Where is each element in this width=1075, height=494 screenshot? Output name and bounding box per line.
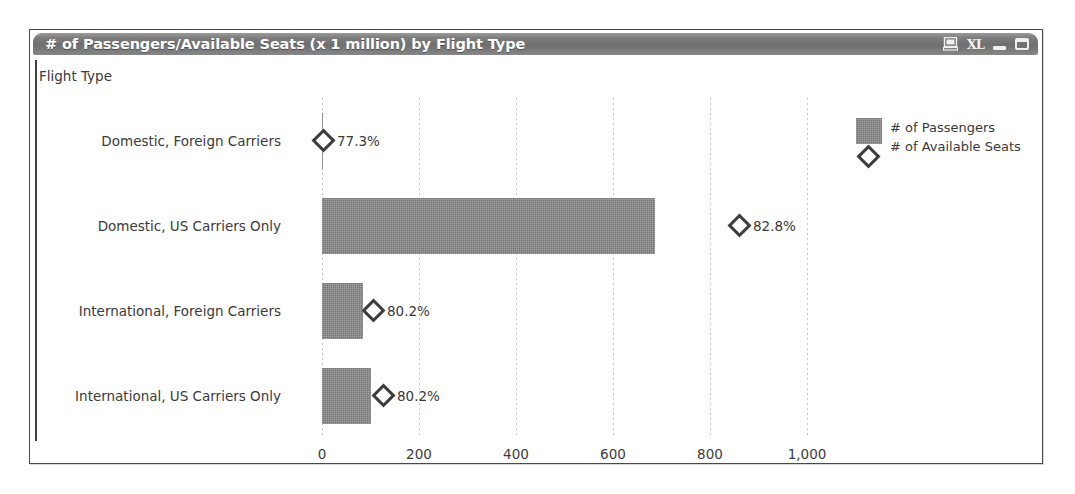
marker-available-seats[interactable] (311, 128, 335, 152)
chart-row: Domestic, US Carriers Only 82.8% (293, 183, 853, 268)
bar-passengers[interactable] (322, 368, 371, 424)
maximize-button[interactable] (1015, 38, 1029, 50)
x-tick-label-1000: 1,000 (788, 446, 827, 462)
chart-legend: # of Passengers # of Available Seats (848, 118, 1021, 156)
category-label: International, US Carriers Only (28, 388, 281, 404)
category-label: International, Foreign Carriers (28, 303, 281, 319)
chart-canvas: Flight Type # of Passengers # of Availab… (30, 56, 1042, 463)
marker-value-label: 82.8% (753, 218, 796, 234)
y-axis-title: Flight Type (39, 68, 112, 84)
marker-value-label: 80.2% (397, 388, 440, 404)
export-excel-icon[interactable]: XL (967, 37, 984, 52)
x-tick-label-0: 0 (318, 446, 327, 462)
plot-area: 0 200 400 600 800 1,000 Domestic, Foreig… (293, 98, 853, 438)
window-titlebar: # of Passengers/Available Seats (x 1 mil… (33, 33, 1038, 55)
legend-label-passengers: # of Passengers (890, 120, 995, 135)
chart-row: International, Foreign Carriers 80.2% (293, 268, 853, 353)
marker-value-label: 80.2% (387, 303, 430, 319)
bar-passengers[interactable] (322, 283, 363, 339)
category-label: Domestic, US Carriers Only (28, 218, 281, 234)
legend-label-available-seats: # of Available Seats (890, 139, 1021, 154)
bar-passengers[interactable] (322, 198, 655, 254)
window-controls: XL (943, 37, 1029, 52)
marker-available-seats[interactable] (727, 213, 751, 237)
chart-window: # of Passengers/Available Seats (x 1 mil… (29, 29, 1043, 464)
x-tick-label-200: 200 (406, 446, 432, 462)
minimize-button[interactable] (993, 46, 1006, 50)
marker-available-seats[interactable] (371, 383, 395, 407)
marker-available-seats[interactable] (361, 298, 385, 322)
page-title: # of Passengers/Available Seats (x 1 mil… (45, 36, 525, 52)
x-tick-label-400: 400 (503, 446, 529, 462)
x-tick-label-600: 600 (600, 446, 626, 462)
x-tick-label-800: 800 (697, 446, 723, 462)
export-image-icon[interactable] (943, 37, 958, 51)
marker-value-label: 77.3% (337, 133, 380, 149)
category-label: Domestic, Foreign Carriers (28, 133, 281, 149)
chart-row: International, US Carriers Only 80.2% (293, 353, 853, 438)
chart-row: Domestic, Foreign Carriers 77.3% (293, 98, 853, 183)
category-axis-spine (35, 60, 37, 441)
legend-item-passengers[interactable]: # of Passengers (848, 118, 1021, 137)
